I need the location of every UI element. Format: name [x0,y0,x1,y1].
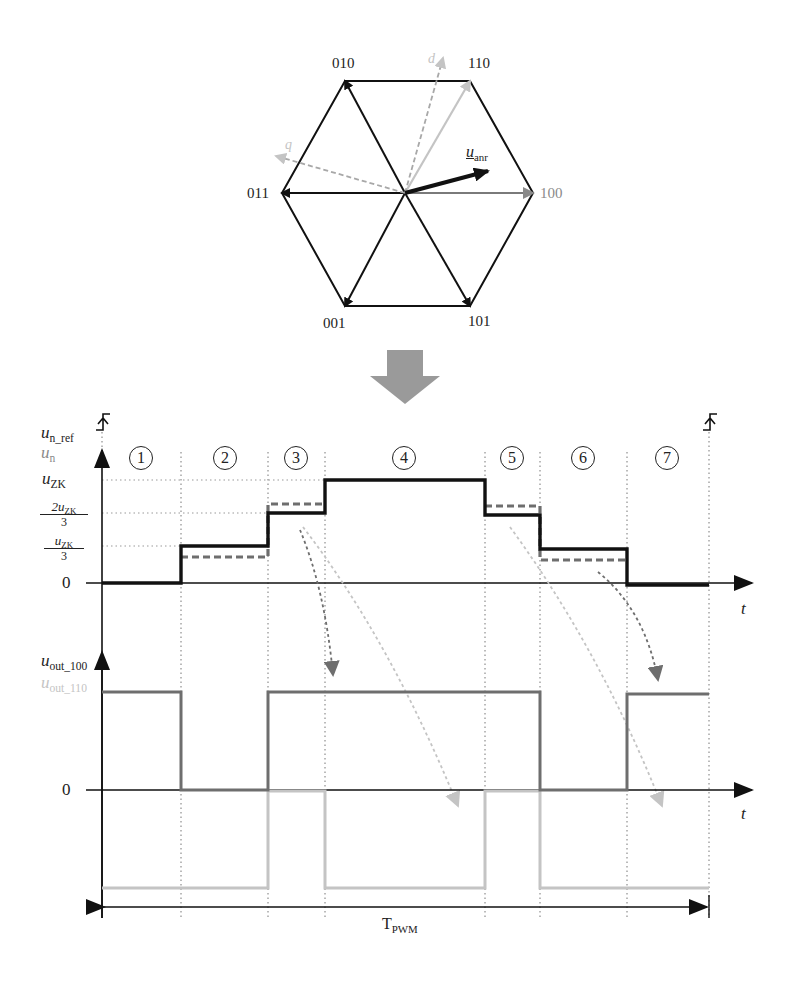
pwm-trigger-icon [703,414,717,430]
vector-010 [345,81,405,193]
d-axis-label: d [428,52,435,66]
level-uzk-sub: ZK [51,478,66,491]
vertex-label-100: 100 [540,186,563,201]
sector-3-badge: 3 [284,446,308,470]
pwm-trigger-icon [96,414,110,430]
level-2uzk3-label: 2uZK 3 [40,500,88,528]
top-plot [86,414,752,918]
vertex-label-011: 011 [247,186,269,201]
reference-vector-label: uanr [466,144,488,160]
pwm-period-sub: PWM [392,923,418,935]
pwm-period-label: TPWM [382,916,418,932]
y-label-n-symbol: u [41,443,50,462]
svm-diagram [0,0,787,983]
bottom-plot [86,652,752,918]
sector-6-badge: 6 [571,446,595,470]
frac-num-sub: ZK [61,540,73,550]
sector-7-badge: 7 [655,446,679,470]
d-axis-arrow [405,58,443,193]
zero-label-top: 0 [62,574,71,591]
level-uzk3-label: uZK 3 [44,534,84,562]
y-label-n-ref-symbol: u [41,423,50,442]
vertex-label-010: 010 [332,56,355,71]
vertex-label-110: 110 [468,56,490,71]
sector-4-badge: 4 [392,446,416,470]
mapping-arrow-light [303,527,458,806]
y-label-out-110-sub: out_110 [50,682,87,695]
mapping-arrow-dark [598,572,658,680]
frac-den: 3 [40,515,88,528]
frac-num-sub: ZK [65,506,77,516]
vector-101 [405,193,470,306]
sector-1-badge: 1 [129,446,153,470]
mapping-arrow-dark [300,530,333,675]
y-label-out-100-symbol: u [41,651,50,670]
pwm-period-symbol: T [382,915,392,932]
output-110-waveform [102,791,709,888]
y-label-out-100: uout_100 [41,652,87,669]
vector-110 [405,81,470,193]
phase-voltage-staircase [102,480,709,585]
y-label-out-110-symbol: u [41,673,50,692]
q-axis-arrow [276,156,405,193]
level-uzk-label: uZK [42,470,66,487]
sector-2-badge: 2 [213,446,237,470]
sector-5-badge: 5 [500,446,524,470]
reference-vector-arrow [405,171,488,193]
output-100-waveform [102,692,709,790]
y-label-n: un [41,444,55,461]
y-label-out-110: uout_110 [41,674,87,691]
frac-num: 2u [52,499,65,514]
zero-label-bottom: 0 [62,781,71,798]
mapping-arrows [300,527,662,806]
y-label-out-100-sub: out_100 [50,660,88,673]
y-label-n-ref: un_ref [41,424,74,441]
x-label-top: t [741,600,746,617]
hexagon [276,58,533,306]
reference-vector-subscript: anr [474,151,488,163]
reference-vector-symbol: u [466,143,474,160]
q-axis-label: q [285,138,292,152]
frac-den: 3 [44,549,84,562]
y-label-n-sub: n [50,452,56,465]
x-label-bottom: t [741,805,746,822]
vertex-label-001: 001 [323,316,346,331]
mapping-arrow-light [510,527,662,806]
vector-001 [345,193,405,306]
transition-down-arrow [370,350,440,404]
level-uzk-symbol: u [42,469,51,488]
vertex-label-101: 101 [468,314,491,329]
